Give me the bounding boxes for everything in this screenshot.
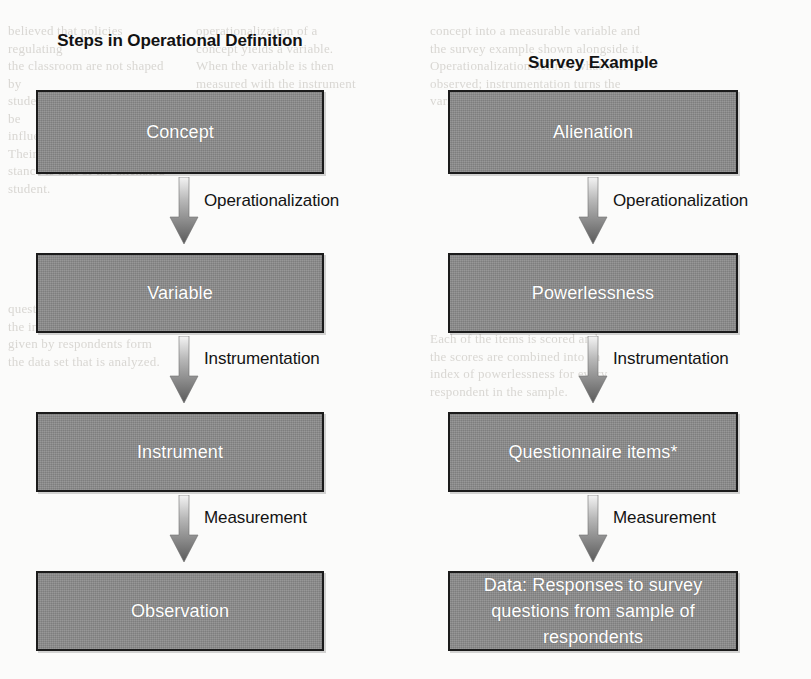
step-label-operationalization: Operationalization [204, 191, 339, 211]
process-box-data-responses: Data: Responses to survey questions from… [448, 571, 738, 651]
step-label-measurement: Measurement [613, 508, 716, 528]
process-box-label: Concept [138, 119, 222, 145]
column-title-operational-definition: Steps in Operational Definition [36, 30, 324, 52]
process-box-label: Powerlessness [524, 280, 662, 306]
step-label-measurement: Measurement [204, 508, 307, 528]
process-box-observation: Observation [36, 571, 324, 651]
process-box-alienation: Alienation [448, 90, 738, 174]
step-label-instrumentation: Instrumentation [204, 349, 320, 369]
process-box-label: Data: Responses to survey questions from… [476, 572, 711, 650]
flow-arrow [578, 177, 608, 245]
flow-arrow [169, 336, 199, 404]
flow-arrow [169, 495, 199, 563]
process-box-questionnaire-items: Questionnaire items* [448, 412, 738, 492]
process-box-instrument: Instrument [36, 412, 324, 492]
process-box-variable: Variable [36, 253, 324, 333]
process-box-label: Alienation [545, 119, 641, 145]
process-box-label: Instrument [129, 439, 231, 465]
process-box-label: Variable [139, 280, 221, 306]
flow-arrow [578, 495, 608, 563]
figure-canvas: believed that policies regulating the cl… [0, 0, 811, 679]
process-box-concept: Concept [36, 90, 324, 174]
process-box-powerlessness: Powerlessness [448, 253, 738, 333]
column-title-survey-example: Survey Example [448, 52, 738, 74]
process-box-label: Observation [123, 598, 237, 624]
process-box-label: Questionnaire items* [500, 439, 685, 465]
flow-arrow [169, 177, 199, 245]
flow-arrow [578, 336, 608, 404]
step-label-operationalization: Operationalization [613, 191, 748, 211]
step-label-instrumentation: Instrumentation [613, 349, 729, 369]
